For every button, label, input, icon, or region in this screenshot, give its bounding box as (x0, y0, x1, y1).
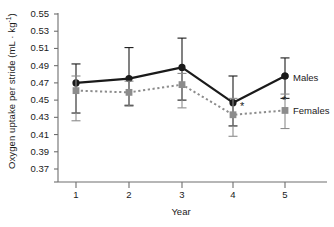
series-label-females: Females (293, 105, 329, 116)
data-point-females (230, 111, 237, 118)
y-tick-label: 0.43 (19, 111, 49, 122)
legend-marker-males (281, 72, 288, 79)
y-axis-title-paren: ) (6, 13, 17, 16)
data-point-males (178, 64, 185, 71)
x-tick-label: 2 (119, 189, 139, 200)
y-axis-title-exponent: -1 (5, 16, 12, 22)
x-tick-label: 4 (223, 189, 243, 200)
y-tick-label: 0.39 (19, 146, 49, 157)
y-axis-title-text: Oxygen uptake per stride (mL · kg (6, 22, 17, 169)
y-tick-label: 0.55 (19, 8, 49, 19)
y-tick-label: 0.45 (19, 94, 49, 105)
data-point-females (73, 87, 80, 94)
y-tick-label: 0.41 (19, 129, 49, 140)
x-tick-label: 5 (275, 189, 295, 200)
y-tick-label: 0.51 (19, 42, 49, 53)
y-tick-label: 0.49 (19, 60, 49, 71)
y-tick-label: 0.47 (19, 77, 49, 88)
data-point-females (179, 81, 186, 88)
x-tick-label: 3 (172, 189, 192, 200)
series-label-males: Males (293, 72, 318, 83)
y-tick-label: 0.53 (19, 25, 49, 36)
x-axis-title: Year (151, 206, 211, 217)
significance-asterisk: * (282, 96, 286, 104)
data-point-females (282, 107, 289, 114)
data-point-females (126, 89, 133, 96)
y-tick-label: 0.37 (19, 163, 49, 174)
significance-asterisk: * (240, 102, 244, 110)
x-tick-label: 1 (66, 189, 86, 200)
